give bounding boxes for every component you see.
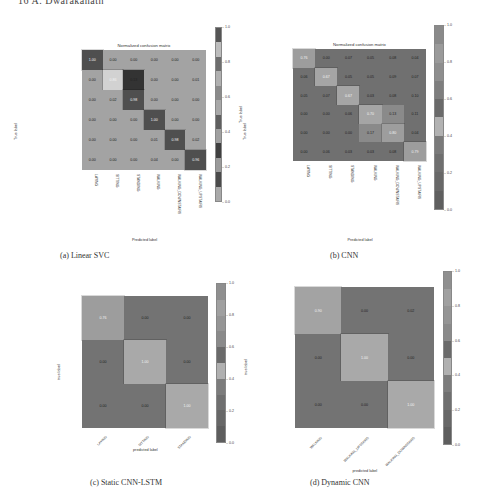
colorbar-band <box>435 63 443 81</box>
colorbar-tick: – 0.8 <box>222 60 230 64</box>
colorbar-band <box>216 100 221 114</box>
matrix-cell: 1.00 <box>166 384 208 428</box>
colorbar-tick: – 0.0 <box>444 208 452 212</box>
matrix-cell: 0.00 <box>82 384 124 428</box>
matrix-cell: 0.05 <box>337 68 359 87</box>
matrix-grid: 0.760.000.070.050.080.040.060.670.050.05… <box>293 49 426 161</box>
colorbar-band <box>444 289 451 306</box>
colorbar-tick: – 0.2 <box>222 165 230 169</box>
matrix-cell: 0.00 <box>123 150 144 170</box>
colorbar-tick: – 0.6 <box>226 345 234 349</box>
column-label: WALKING <box>373 165 377 181</box>
matrix-cell: 0.00 <box>144 90 165 110</box>
matrix-cell: 0.00 <box>103 150 124 170</box>
matrix-cell: 0.17 <box>359 124 381 143</box>
matrix-cell: 0.00 <box>315 49 337 68</box>
colorbar-tick: – 0.2 <box>444 171 452 175</box>
matrix-cell: 0.76 <box>82 296 124 340</box>
column-label: WALKING_DOWNSTAIRS <box>395 165 399 205</box>
matrix-cell: 0.00 <box>293 124 315 143</box>
figure-caption: (d) Dynamic CNN <box>310 478 370 487</box>
figure-caption: (c) Static CNN-LSTM <box>90 478 162 487</box>
x-axis-title: predicted label <box>133 448 158 452</box>
colorbar-band <box>435 117 443 135</box>
matrix-cell: 0.00 <box>123 50 144 70</box>
matrix-cell: 1.00 <box>144 110 165 130</box>
matrix-cell: 0.04 <box>404 124 426 143</box>
colorbar-tick: – 0.2 <box>226 409 234 413</box>
column-label: WALKING <box>156 174 160 190</box>
matrix-cell: 0.08 <box>382 142 404 161</box>
matrix-cell: 0.00 <box>124 296 166 340</box>
matrix-cell: 0.00 <box>165 90 186 110</box>
matrix-cell: 0.00 <box>293 142 315 161</box>
colorbar-tick: – 0.6 <box>444 97 452 101</box>
colorbar-tick: – 0.8 <box>444 60 452 64</box>
matrix-cell: 0.00 <box>185 90 206 110</box>
matrix-cell: 0.00 <box>337 124 359 143</box>
colorbar-band <box>435 26 443 44</box>
matrix-cell: 0.00 <box>82 340 124 384</box>
colorbar-band <box>217 300 225 316</box>
matrix-cell: 0.00 <box>315 124 337 143</box>
colorbar-title: True label <box>239 107 243 124</box>
matrix-cell: 0.76 <box>293 49 315 68</box>
colorbar-band <box>216 86 221 100</box>
colorbar-band <box>444 392 451 409</box>
colorbar-band <box>216 172 221 186</box>
colorbar-band <box>217 379 225 395</box>
colorbar-tick: – 1.0 <box>452 269 460 273</box>
matrix-cell: 0.00 <box>341 381 387 428</box>
matrix-cell: 0.13 <box>123 70 144 90</box>
matrix-cell: 0.80 <box>382 124 404 143</box>
colorbar-tick: – 0.4 <box>452 373 460 377</box>
matrix-cell: 0.00 <box>103 110 124 130</box>
colorbar-tick: – 0.0 <box>226 441 234 445</box>
matrix-cell: 0.90 <box>295 287 341 334</box>
matrix-cell: 0.00 <box>123 130 144 150</box>
matrix-cell: 0.00 <box>315 105 337 124</box>
column-label: STANDING <box>350 165 354 182</box>
y-axis-title: True label <box>14 123 18 140</box>
figure-caption: (b) CNN <box>330 251 358 260</box>
matrix-cell: 0.08 <box>382 86 404 105</box>
colorbar-tick: – 0.4 <box>226 377 234 381</box>
matrix-cell: 0.96 <box>185 150 206 170</box>
matrix-cell: 1.00 <box>341 334 387 381</box>
matrix-cell: 0.00 <box>185 110 206 130</box>
colorbar-band <box>217 363 225 379</box>
column-label: STANDING <box>136 174 140 191</box>
colorbar-band <box>444 427 451 444</box>
matrix-cell: 1.00 <box>388 381 434 428</box>
matrix-cell: 0.05 <box>359 49 381 68</box>
column-label: LAYING <box>306 165 310 177</box>
colorbar <box>216 283 226 443</box>
colorbar-band <box>435 136 443 154</box>
matrix-cell: 0.70 <box>359 105 381 124</box>
matrix-cell: 0.00 <box>144 70 165 90</box>
colorbar-band <box>435 81 443 99</box>
column-label: SITTING <box>115 174 119 187</box>
matrix-cell: 0.08 <box>382 49 404 68</box>
matrix-cell: 0.79 <box>404 142 426 161</box>
colorbar-tick: – 1.0 <box>444 23 452 27</box>
matrix-cell: 0.00 <box>82 150 103 170</box>
colorbar-band <box>444 324 451 341</box>
matrix-grid: 1.000.000.000.000.000.000.000.860.130.00… <box>82 50 206 170</box>
matrix-cell: 1.00 <box>82 50 103 70</box>
colorbar-tick: – 0.2 <box>452 408 460 412</box>
matrix-cell: 0.09 <box>382 68 404 87</box>
matrix-cell: 0.00 <box>165 150 186 170</box>
column-label: STANDING <box>177 435 192 450</box>
chart-title: Normalized confusion matrix <box>82 43 206 48</box>
colorbar-band <box>217 316 225 332</box>
matrix-cell: 0.98 <box>123 90 144 110</box>
matrix-cell: 0.05 <box>293 86 315 105</box>
matrix-cell: 0.05 <box>359 68 381 87</box>
matrix-cell: 0.07 <box>404 68 426 87</box>
colorbar-band <box>435 44 443 62</box>
colorbar-band <box>444 341 451 358</box>
colorbar-band <box>444 375 451 392</box>
matrix-cell: 0.03 <box>359 86 381 105</box>
matrix-cell: 0.00 <box>295 334 341 381</box>
